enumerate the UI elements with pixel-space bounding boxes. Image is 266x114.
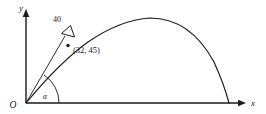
trajectory-point-marker (66, 44, 69, 47)
x-axis-label: x (250, 98, 255, 108)
initial-speed-label: 40 (53, 15, 61, 24)
launch-angle-label: α (43, 92, 48, 101)
trajectory-point-label: (32, 45) (73, 45, 100, 55)
y-axis-label: y (18, 3, 23, 13)
y-axis-arrowhead-icon (23, 9, 30, 17)
x-axis-arrowhead-icon (238, 100, 246, 107)
velocity-vector-arrowhead-icon (62, 26, 75, 38)
origin-label: O (10, 100, 17, 110)
figure-canvas: y x O 40 α (32, 45) (0, 0, 266, 114)
projectile-diagram: y x O 40 α (32, 45) (0, 0, 266, 114)
